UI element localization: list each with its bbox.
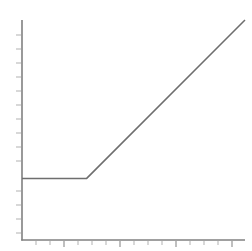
line-chart-plot [0, 0, 252, 251]
plot-background [0, 0, 252, 251]
chart-figure [0, 0, 252, 251]
